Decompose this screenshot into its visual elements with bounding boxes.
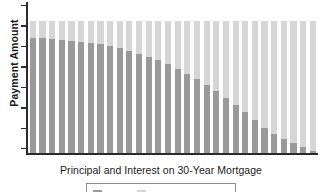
legend-item: Principal (137, 190, 180, 193)
bar-slot (308, 2, 318, 153)
bar-slot (76, 2, 86, 153)
y-axis-tick (21, 46, 27, 47)
stacked-bar (78, 21, 84, 154)
bar-segment-interest (165, 64, 171, 153)
stacked-bar (281, 21, 287, 154)
bar-slot (125, 2, 135, 153)
bar-segment-interest (300, 147, 306, 153)
bar-segment-principal (155, 21, 161, 61)
legend-swatch (137, 190, 146, 192)
bar-slot (202, 2, 212, 153)
bar-segment-interest (290, 143, 296, 153)
bar-slot (86, 2, 96, 153)
bar-slot (115, 2, 125, 153)
y-axis-tick (21, 128, 27, 129)
bar-segment-principal (146, 21, 152, 58)
stacked-bar (165, 21, 171, 154)
bar-segment-principal (107, 21, 113, 47)
bar-segment-interest (281, 139, 287, 154)
stacked-bar (252, 21, 258, 154)
bar-segment-interest (194, 79, 200, 153)
bar-segment-interest (233, 105, 239, 153)
bar-slot (183, 2, 193, 153)
bar-segment-interest (49, 39, 55, 153)
bar-segment-interest (252, 120, 258, 153)
bar-segment-principal (310, 21, 316, 151)
bar-segment-interest (107, 46, 113, 153)
bar-segment-interest (88, 43, 94, 153)
bar-segment-interest (97, 44, 103, 153)
bar-slot (38, 2, 48, 153)
stacked-bar (39, 21, 45, 154)
stacked-bar (233, 21, 239, 154)
bar-segment-principal (261, 21, 267, 129)
bar-slot (260, 2, 270, 153)
bar-segment-principal (97, 21, 103, 45)
bar-slot (173, 2, 183, 153)
bar-slot (163, 2, 173, 153)
bar-segment-principal (213, 21, 219, 91)
bar-segment-interest (271, 134, 277, 153)
bar-segment-interest (175, 69, 181, 153)
y-axis-tick (21, 66, 27, 67)
bar-slot (67, 2, 77, 153)
stacked-bar (49, 21, 55, 154)
bar-segment-interest (30, 38, 36, 154)
bar-slot (221, 2, 231, 153)
stacked-bar (97, 21, 103, 154)
stacked-bar (136, 21, 142, 154)
bar-segment-principal (175, 21, 181, 69)
y-axis-tick (21, 107, 27, 108)
y-axis-tick (21, 87, 27, 88)
bar-slot (105, 2, 115, 153)
x-axis-line (26, 153, 318, 155)
bar-slot (28, 2, 38, 153)
bar-slot (192, 2, 202, 153)
stacked-bar (271, 21, 277, 154)
stacked-bar (155, 21, 161, 154)
bar-segment-principal (281, 21, 287, 139)
stacked-bar (300, 21, 306, 154)
bar-slot (134, 2, 144, 153)
bar-segment-principal (68, 21, 74, 42)
bar-segment-interest (213, 91, 219, 153)
bar-segment-principal (290, 21, 296, 144)
bar-segment-principal (88, 21, 94, 44)
bar-slot (289, 2, 299, 153)
bar-segment-interest (39, 38, 45, 153)
stacked-bar (310, 21, 316, 154)
bar-slot (250, 2, 260, 153)
bar-segment-interest (136, 54, 142, 154)
stacked-bar (204, 21, 210, 154)
legend-swatch (93, 190, 102, 192)
bar-segment-interest (146, 57, 152, 153)
bar-slot (47, 2, 57, 153)
bar-slot (211, 2, 221, 153)
bar-segment-principal (233, 21, 239, 105)
bar-segment-principal (136, 21, 142, 54)
bar-segment-principal (39, 21, 45, 39)
bar-segment-principal (78, 21, 84, 42)
bar-segment-principal (223, 21, 229, 98)
bar-segment-interest (242, 112, 248, 153)
y-axis-tick (21, 25, 27, 26)
stacked-bar (107, 21, 113, 154)
stacked-bar (184, 21, 190, 154)
y-axis-tick (21, 148, 27, 149)
bar-slot (154, 2, 164, 153)
bar-slot (240, 2, 250, 153)
stacked-bar (194, 21, 200, 154)
bar-segment-principal (117, 21, 123, 49)
x-axis-label: Principal and Interest on 30-Year Mortga… (0, 164, 322, 176)
mortgage-amortization-chart: Payment Amount Principal and Interest on… (0, 0, 322, 192)
bar-segment-principal (59, 21, 65, 41)
bar-segment-interest (261, 128, 267, 153)
bar-segment-principal (194, 21, 200, 79)
bar-segment-interest (310, 151, 316, 154)
stacked-bar (126, 21, 132, 154)
stacked-bar (146, 21, 152, 154)
stacked-bar (68, 21, 74, 154)
stacked-bar (175, 21, 181, 154)
bar-slot (57, 2, 67, 153)
stacked-bar (30, 21, 36, 154)
